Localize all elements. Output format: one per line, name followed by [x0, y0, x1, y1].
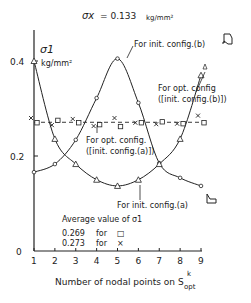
data-point-square [35, 121, 39, 125]
legend-for-x: for [96, 239, 108, 248]
x-tick-label: 5 [115, 256, 121, 266]
annotation-opt-b-2: ([init. config.(b)]) [158, 95, 227, 104]
y-tick-label: 0.2 [10, 152, 24, 162]
data-point-circle [116, 57, 120, 61]
data-point-circle [95, 96, 99, 100]
x-tick-label: 7 [156, 256, 162, 266]
title-value: = 0.133 [100, 11, 136, 21]
data-point-x [113, 116, 117, 120]
series-group [29, 57, 206, 189]
x-axis-label-sup: k [187, 270, 192, 278]
data-point-circle [137, 101, 141, 105]
y-axis-unit: kg/mm² [41, 59, 72, 68]
legend-title: Average value of σ1 [62, 215, 142, 224]
data-point-circle [199, 184, 203, 188]
data-point-triangle [94, 177, 100, 183]
data-point-square [139, 121, 143, 125]
x-tick-label: 8 [177, 256, 183, 266]
annotation-opt-a-1: For opt. config. [86, 136, 146, 145]
annotation-init-b: For init. config.(b) [134, 40, 205, 49]
y-axis-label: σ1 [40, 43, 54, 56]
data-point-x [92, 124, 96, 128]
title: σx = 0.133 kg/mm² [82, 10, 173, 22]
legend-value-x: 0.273 [62, 239, 85, 248]
legend-marker-square: □ [117, 229, 125, 238]
data-point-square [202, 121, 206, 125]
config-b-shape-icon [222, 34, 232, 44]
legend-marker-x: × [117, 239, 124, 248]
data-point-x [133, 121, 137, 125]
data-point-triangle [52, 136, 58, 142]
data-point-square [181, 122, 185, 126]
x-tick-label: 9 [198, 256, 204, 266]
x-axis-label-text: Number of nodal points on S [55, 277, 184, 287]
legend-for-square: for [96, 229, 108, 238]
legend-value-square: 0.269 [62, 229, 85, 238]
chart: σx = 0.133 kg/mm² σ1 kg/mm² 00.20.4 1234… [0, 0, 251, 303]
annotation-init-a: For init. config.(a) [117, 201, 188, 210]
series-x [29, 114, 200, 128]
x-tick-label: 1 [31, 256, 37, 266]
data-point-square [118, 124, 122, 128]
data-point-circle [53, 162, 57, 166]
data-point-circle [178, 176, 182, 180]
annotation-opt-b-1: For opt. config [158, 84, 216, 93]
data-point-x [154, 122, 158, 126]
data-point-circle [74, 138, 78, 142]
legend: Average value of σ1 0.269 for □ 0.273 fo… [62, 215, 142, 248]
x-tick-label: 6 [135, 256, 141, 266]
x-axis-label: Number of nodal points on S k opt [55, 270, 196, 291]
data-point-square [77, 121, 81, 125]
x-tick-label: 3 [73, 256, 79, 266]
data-point-circle [32, 170, 36, 174]
x-tick-label: 4 [94, 256, 100, 266]
data-point-square [97, 122, 101, 126]
y-tick-label: 0.4 [10, 57, 25, 67]
annotation-opt-a-2: ([init. config.(a)]) [86, 147, 154, 156]
config-a-shape-icon [207, 194, 216, 203]
data-point-triangle [135, 177, 141, 183]
data-point-x [71, 117, 75, 121]
y-tick-label: 0 [16, 247, 22, 257]
title-symbol: σx [82, 10, 94, 21]
data-point-x [196, 114, 200, 118]
data-point-square [160, 120, 164, 124]
x-tick-label: 2 [52, 256, 58, 266]
title-unit: kg/mm² [146, 14, 173, 22]
series-square [35, 118, 206, 129]
x-axis-label-sub: opt [184, 283, 196, 291]
data-point-square [56, 118, 60, 122]
data-point-triangle [177, 136, 183, 142]
data-point-x [29, 116, 33, 120]
